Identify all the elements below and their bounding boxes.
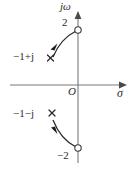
root-locus-figure: jω σ O 2 −2 −1+j −1−j	[0, 0, 133, 169]
pole-bottom-label: −1−j	[13, 108, 34, 119]
zero-top-label: 2	[62, 17, 68, 28]
imaginary-axis-arrow-icon	[75, 11, 82, 19]
real-axis-label: σ	[117, 87, 123, 99]
origin-label: O	[68, 86, 76, 97]
locus-branch-upper	[53, 31, 76, 57]
pole-marker-top	[48, 55, 54, 61]
pole-marker-bottom	[49, 110, 55, 116]
zero-marker-bottom	[75, 145, 81, 151]
imaginary-axis-label: jω	[60, 1, 71, 12]
locus-branch-lower	[53, 120, 76, 147]
zero-bottom-label: −2	[57, 150, 69, 161]
zero-marker-top	[75, 27, 81, 33]
pole-top-label: −1+j	[13, 51, 34, 62]
